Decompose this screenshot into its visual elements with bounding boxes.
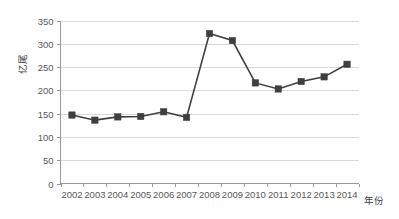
line-chart: 050100150200250300350 200220032004200520… bbox=[0, 0, 399, 219]
x-tick-label: 2013 bbox=[314, 189, 335, 200]
x-tick-label: 2011 bbox=[268, 189, 288, 200]
y-tick-label: 250 bbox=[38, 62, 54, 73]
data-point-marker bbox=[115, 114, 121, 120]
y-tick-label: 150 bbox=[38, 109, 54, 120]
data-point-marker bbox=[138, 113, 144, 119]
x-tick-label: 2007 bbox=[176, 189, 197, 200]
x-tick-label: 2006 bbox=[153, 189, 174, 200]
data-point-marker bbox=[252, 80, 258, 86]
data-point-marker bbox=[229, 37, 235, 43]
y-tick-label: 50 bbox=[43, 155, 54, 166]
x-tick-label: 2009 bbox=[222, 189, 243, 200]
data-point-marker bbox=[69, 112, 75, 118]
x-tick-label: 2010 bbox=[245, 189, 266, 200]
data-point-marker bbox=[344, 61, 350, 67]
x-tick-label: 2004 bbox=[107, 189, 128, 200]
y-tick-label: 300 bbox=[38, 39, 54, 50]
y-tick-label: 350 bbox=[38, 16, 54, 27]
y-tick-label: 100 bbox=[38, 132, 54, 143]
chart-background bbox=[0, 0, 399, 219]
y-tick-label: 0 bbox=[48, 179, 53, 190]
y-tick-label: 200 bbox=[38, 85, 54, 96]
data-point-marker bbox=[92, 117, 98, 123]
x-tick-label: 2012 bbox=[291, 189, 312, 200]
x-tick-label: 2008 bbox=[199, 189, 220, 200]
data-point-marker bbox=[321, 74, 327, 80]
data-point-marker bbox=[275, 86, 281, 92]
x-tick-label: 2002 bbox=[61, 189, 82, 200]
x-tick-label: 2003 bbox=[84, 189, 105, 200]
chart-container: 050100150200250300350 200220032004200520… bbox=[0, 0, 399, 219]
y-axis-title: 亿尾 bbox=[17, 54, 28, 74]
x-tick-label: 2005 bbox=[130, 189, 151, 200]
x-axis-title: 年份 bbox=[364, 195, 384, 206]
x-tick-label: 2014 bbox=[336, 189, 357, 200]
data-point-marker bbox=[183, 114, 189, 120]
data-point-marker bbox=[206, 30, 212, 36]
data-point-marker bbox=[160, 109, 166, 115]
data-point-marker bbox=[298, 78, 304, 84]
